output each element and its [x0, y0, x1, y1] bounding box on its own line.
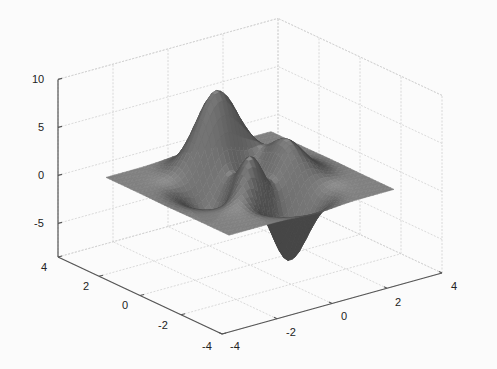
z-tick-neg5: -5 [34, 217, 44, 229]
y-tick-2: 2 [83, 280, 89, 292]
y-tick-neg4: -4 [202, 340, 212, 352]
x-tick-4: 4 [451, 280, 457, 292]
x-tick-2: 2 [395, 296, 401, 308]
z-tick-0: 0 [38, 169, 44, 181]
y-tick-0: 0 [122, 299, 128, 311]
peaks-surface [106, 90, 394, 260]
z-tick-10: 10 [32, 73, 44, 85]
x-tick-neg2: -2 [286, 326, 296, 338]
y-tick-4: 4 [41, 261, 47, 273]
z-tick-5: 5 [38, 121, 44, 133]
x-tick-0: 0 [341, 310, 347, 322]
y-tick-neg2: -2 [158, 319, 168, 331]
surface-plot: 10 5 0 -5 4 2 0 -2 -4 -4 -2 0 2 4 [0, 0, 497, 369]
x-tick-neg4: -4 [230, 340, 240, 352]
